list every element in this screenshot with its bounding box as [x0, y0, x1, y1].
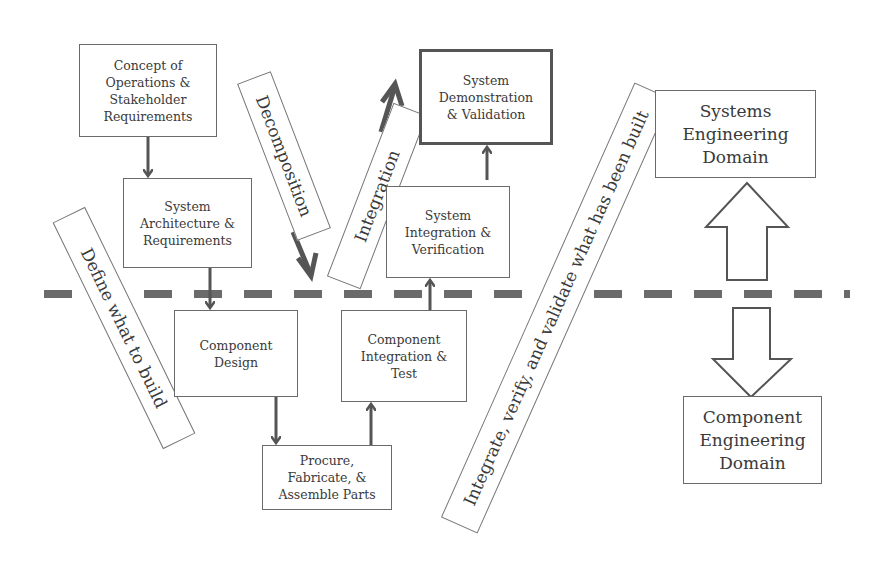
hollow-down-arrow-icon	[713, 308, 791, 397]
box-component-engineering-domain: Component Engineering Domain	[683, 396, 822, 484]
box-component-integration-test: Component Integration & Test	[341, 310, 467, 402]
box-component-design: Component Design	[174, 310, 298, 397]
box-system-demonstration-validation: System Demonstration & Validation	[419, 49, 553, 145]
hollow-up-arrow-icon	[706, 183, 788, 280]
box-concept-of-operations: Concept of Operations & Stakeholder Requ…	[79, 44, 217, 137]
box-systems-engineering-domain: Systems Engineering Domain	[655, 90, 816, 178]
box-system-architecture: System Architecture & Requirements	[123, 178, 252, 268]
box-procure-fabricate-assemble: Procure, Fabricate, & Assemble Parts	[262, 445, 392, 510]
box-system-integration-verification: System Integration & Verification	[386, 186, 510, 278]
